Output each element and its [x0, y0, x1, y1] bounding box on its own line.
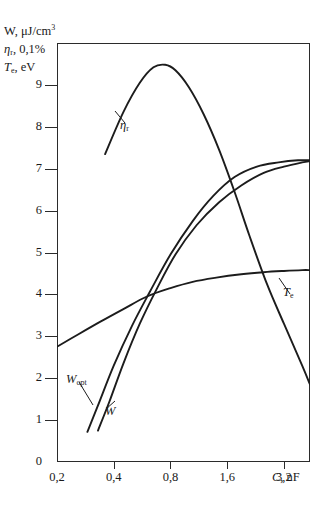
y-tick-label: 2	[0, 371, 42, 384]
curve-label-w-symbol: W	[105, 404, 115, 418]
x-tick-label: 0,2	[37, 471, 77, 484]
curve-label-eta-r: ηr	[120, 118, 129, 133]
y-axis-title-eta-units: , 0,1%	[13, 42, 45, 56]
curve-label-wopt-subscript: opt	[76, 378, 86, 387]
y-axis-title-te: Te, eV	[4, 59, 55, 77]
y-tick-label: 7	[0, 162, 42, 175]
x-axis-title-units: , nF	[280, 470, 299, 484]
y-axis-title-te-subscript: e	[11, 66, 15, 75]
y-tick-label: 0	[0, 455, 42, 468]
x-tick-mark	[284, 462, 285, 469]
x-tick-label: 0,4	[94, 471, 134, 484]
x-tick-label: 1,6	[207, 471, 247, 484]
curve-w-opt	[87, 160, 310, 432]
chart-root: W, μJ/cm3 ηr, 0,1% Te, eV 0123456789 0,2…	[0, 0, 333, 508]
curve-label-w: W	[105, 404, 115, 419]
x-tick-label: 0,8	[150, 471, 190, 484]
y-tick-mark	[45, 253, 57, 254]
curve-w	[98, 161, 310, 430]
y-tick-label: 1	[0, 413, 42, 426]
y-axis-title-te-symbol: T	[4, 60, 11, 74]
y-tick-mark	[45, 294, 57, 295]
y-axis-title-group: W, μJ/cm3 ηr, 0,1% Te, eV	[4, 22, 55, 76]
y-axis-title-w-text: W, μJ/cm	[4, 24, 51, 38]
y-tick-mark	[45, 378, 57, 379]
y-tick-mark	[45, 85, 57, 86]
y-tick-label: 6	[0, 204, 42, 217]
x-axis-title: C, nF	[272, 470, 300, 485]
x-tick-mark	[114, 462, 115, 469]
y-tick-mark	[45, 336, 57, 337]
curve-label-w-opt: Wopt	[66, 372, 87, 387]
y-tick-label: 8	[0, 120, 42, 133]
y-tick-label: 9	[0, 78, 42, 91]
curve-label-eta-subscript: r	[126, 124, 129, 133]
x-tick-mark	[170, 462, 171, 469]
curve-label-te-subscript: e	[290, 291, 294, 300]
curve-te	[57, 270, 310, 347]
y-tick-mark	[45, 420, 57, 421]
x-tick-mark	[227, 462, 228, 469]
y-tick-label: 5	[0, 246, 42, 259]
y-tick-mark	[45, 169, 57, 170]
y-axis-title-w: W, μJ/cm3	[4, 22, 55, 41]
y-axis-title-eta: ηr, 0,1%	[4, 41, 55, 59]
curve-label-te: Te	[283, 285, 294, 300]
y-tick-mark	[45, 211, 57, 212]
curve-label-te-symbol: T	[283, 285, 290, 299]
y-tick-label: 4	[0, 287, 42, 300]
y-axis-title-eta-subscript: r	[10, 48, 13, 57]
y-axis-title-te-units: , eV	[15, 60, 36, 74]
y-axis-title-w-exponent: 3	[51, 23, 55, 32]
y-tick-mark	[45, 127, 57, 128]
curve-layer	[57, 43, 310, 462]
curve-eta-r	[105, 65, 310, 385]
y-tick-label: 3	[0, 329, 42, 342]
curve-label-wopt-symbol: W	[66, 372, 76, 386]
